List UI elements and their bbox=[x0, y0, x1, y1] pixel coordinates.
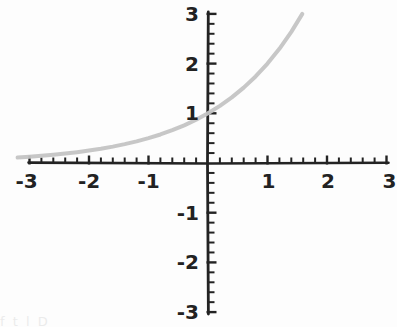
y-tick-label: -2 bbox=[177, 250, 199, 274]
x-tick-label: 1 bbox=[262, 169, 276, 193]
y-tick-label: 3 bbox=[185, 2, 199, 26]
x-tick-label: -2 bbox=[78, 169, 100, 193]
footer-partial-text: f t l D bbox=[0, 314, 397, 327]
y-tick-label: -1 bbox=[177, 201, 199, 225]
x-tick-label: 3 bbox=[383, 169, 397, 193]
x-tick-label: -1 bbox=[137, 169, 159, 193]
cartesian-plot: -3-2-1123321-1-2-3 bbox=[0, 0, 397, 327]
graph-page: -3-2-1123321-1-2-3 f t l D bbox=[0, 0, 397, 327]
x-tick-label: -3 bbox=[15, 169, 37, 193]
x-tick-label: 2 bbox=[321, 169, 335, 193]
y-tick-label: 2 bbox=[185, 52, 199, 76]
function-curve bbox=[18, 14, 303, 158]
axes-group bbox=[29, 12, 389, 314]
y-tick-label: 1 bbox=[185, 101, 199, 125]
